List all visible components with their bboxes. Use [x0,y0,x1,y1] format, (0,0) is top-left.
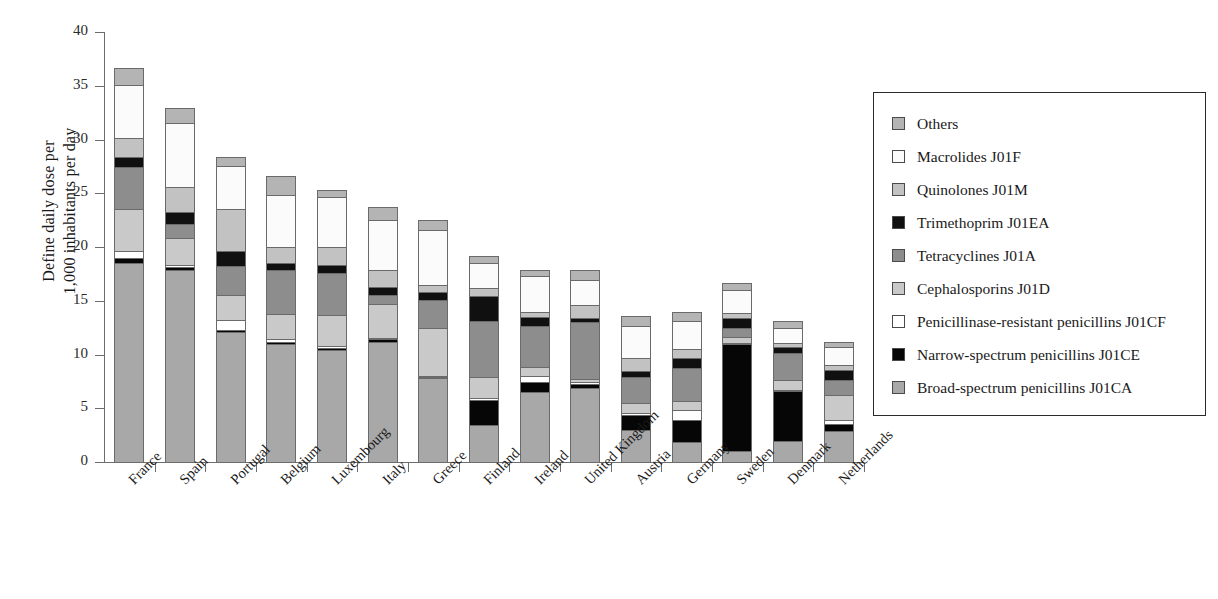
legend-item[interactable]: Penicillinase-resistant penicillins J01C… [892,305,1205,338]
bar-segment [470,296,498,321]
bar-stack[interactable] [266,176,296,462]
bar-segment [419,378,447,462]
bar-segment [622,358,650,371]
bar-segment [217,209,245,251]
bar-stack[interactable] [722,283,752,462]
bar-segment [622,326,650,358]
y-axis-tick [95,32,104,33]
bar-stack[interactable] [570,270,600,462]
legend-item[interactable]: Others [892,107,1205,140]
bar-stack[interactable] [114,68,144,462]
bar-stack[interactable] [165,108,195,462]
y-axis-tick [95,462,104,463]
bar-segment [774,353,802,380]
bar-stack[interactable] [317,190,347,462]
bar-segment [571,322,599,379]
bar-segment [774,441,802,463]
bar-segment [267,176,295,195]
y-axis-tick [95,140,104,141]
bar-segment [369,287,397,296]
legend-swatch-icon [892,315,905,328]
bar-segment [521,382,549,392]
legend-item-label: Broad-spectrum penicillins J01CA [917,379,1132,397]
bar-segment [723,318,751,328]
legend-swatch-icon [892,150,905,163]
legend-item[interactable]: Macrolides J01F [892,140,1205,173]
bar-segment [470,425,498,462]
bar-segment [825,347,853,365]
legend-item-label: Tetracyclines J01A [917,247,1036,265]
bar-segment [419,300,447,328]
bar-segment [115,209,143,251]
bar-segment [267,247,295,263]
bar-segment [267,344,295,462]
bar-segment [267,195,295,247]
y-axis-title-line2: 1,000 inhabitants per day [59,56,80,366]
bar-stack[interactable] [520,270,550,462]
legend-item[interactable]: Narrow-spectrum penicillins J01CE [892,338,1205,371]
bar-stack[interactable] [773,321,803,462]
bar-stack[interactable] [672,312,702,462]
legend-item[interactable]: Trimethoprim J01EA [892,206,1205,239]
bar-segment [419,285,447,293]
y-axis-tick [95,408,104,409]
bar-segment [673,349,701,358]
bar-segment [521,326,549,368]
bar-segment [267,314,295,340]
legend-item[interactable]: Cephalosporins J01D [892,272,1205,305]
y-axis-title-line1: Define daily dose per [38,56,59,366]
bar-segment [217,251,245,266]
y-axis-tick [95,193,104,194]
bar-segment [217,166,245,209]
bar-stack[interactable] [418,220,448,462]
legend-item-label: Quinolones J01M [917,181,1028,199]
y-axis-tick-label: 20 [48,237,88,254]
bar-segment [622,377,650,403]
legend-swatch-icon [892,183,905,196]
bar-segment [419,230,447,285]
bar-segment [571,280,599,305]
bar-segment [673,368,701,400]
bar-segment [622,316,650,326]
bar-segment [318,265,346,273]
bar-segment [115,263,143,462]
bar-segment [166,238,194,265]
bar-stack[interactable] [368,207,398,462]
legend-item[interactable]: Quinolones J01M [892,173,1205,206]
bar-segment [115,157,143,168]
bar-segment [673,420,701,442]
legend-swatch-icon [892,348,905,361]
legend-item-label: Penicillinase-resistant penicillins J01C… [917,313,1166,331]
bar-segment [470,400,498,426]
legend: OthersMacrolides J01FQuinolones J01MTrim… [873,92,1206,416]
bar-segment [825,395,853,420]
bar-stack[interactable] [469,256,499,462]
bar-segment [419,328,447,376]
bar-segment [318,197,346,248]
y-axis-title: Define daily dose per 1,000 inhabitants … [38,56,80,366]
legend-item-label: Macrolides J01F [917,148,1021,166]
legend-swatch-icon [892,282,905,295]
legend-item[interactable]: Broad-spectrum penicillins J01CA [892,371,1205,404]
bar-stack[interactable] [216,157,246,462]
bar-segment [470,321,498,377]
bar-segment [571,388,599,462]
bar-segment [774,328,802,343]
bar-segment [774,380,802,390]
plot-area: 0510152025303540 FranceSpainPortugalBelg… [104,32,864,462]
y-axis-tick [95,247,104,248]
bar-segment [673,312,701,322]
bar-segment [166,212,194,225]
bar-segment [825,370,853,381]
legend-swatch-icon [892,249,905,262]
bar-segment [723,290,751,313]
legend-swatch-icon [892,216,905,229]
bar-segment [419,292,447,300]
bar-segment [369,270,397,287]
chart-figure: Define daily dose per 1,000 inhabitants … [0,0,1218,599]
bar-segment [825,380,853,395]
bar-segment [217,157,245,167]
bar-segment [217,266,245,295]
legend-item[interactable]: Tetracyclines J01A [892,239,1205,272]
legend-swatch-icon [892,381,905,394]
